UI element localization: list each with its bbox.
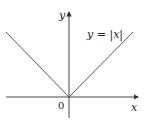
function-label: y = |x| [86,28,123,42]
abs-curve [6,32,133,97]
origin-label: 0 [58,100,64,111]
abs-value-graph: y x 0 y = |x| [0,0,146,125]
x-axis-label: x [131,101,138,114]
y-axis-label: y [58,9,66,22]
